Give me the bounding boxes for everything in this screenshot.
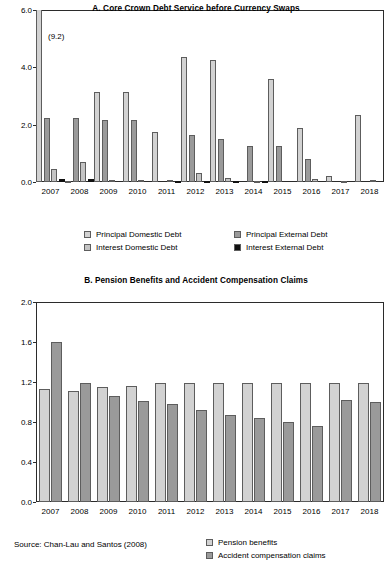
panel-a-plot-area: A. Core Crown Debt Service before Curren… (0, 0, 392, 200)
bar-2018-accident-compensation-claims (370, 402, 381, 502)
bar-2017-accident-compensation-claims (341, 400, 352, 502)
x-tick-label-2010: 2010 (129, 187, 147, 196)
bar-2007-pension-benefits (39, 389, 50, 502)
bar-2016-principal-external-debt (305, 159, 311, 182)
x-tick-label-2012: 2012 (187, 507, 205, 516)
y-tick-label: 1.6 (21, 338, 32, 347)
legend-swatch-icon (206, 552, 213, 559)
bar-2017-principal-domestic-debt (326, 176, 332, 182)
y-tick-mark (33, 382, 36, 383)
bar-2015-principal-domestic-debt (268, 79, 274, 182)
bar-2012-interest-domestic-debt (196, 173, 202, 182)
x-tick-label-2015: 2015 (274, 187, 292, 196)
x-tick-label-2014: 2014 (245, 507, 263, 516)
bar-2013-interest-domestic-debt (225, 178, 231, 182)
bar-2009-principal-domestic-debt (94, 92, 100, 182)
y-tick-label: 0.8 (21, 418, 32, 427)
legend-item-principal-domestic-debt[interactable]: Principal Domestic Debt (84, 230, 234, 239)
bar-2016-pension-benefits (300, 383, 311, 502)
y-tick-label: 0.4 (21, 458, 32, 467)
bar-2008-principal-domestic-debt (65, 181, 71, 183)
bar-2008-interest-domestic-debt (80, 162, 86, 182)
bar-2012-accident-compensation-claims (196, 410, 207, 502)
panel-b-plot-area: B. Pension Benefits and Accident Compens… (0, 272, 392, 528)
bar-2007-principal-domestic-debt (36, 10, 42, 182)
bar-2016-principal-domestic-debt (297, 128, 303, 182)
bar-2014-interest-domestic-debt (254, 181, 260, 183)
panel-b-chart: B. Pension Benefits and Accident Compens… (0, 272, 392, 566)
x-tick-label-2009: 2009 (100, 187, 118, 196)
x-tick-label-2011: 2011 (158, 187, 175, 196)
legend-swatch-icon (84, 231, 91, 238)
legend-item-interest-domestic-debt[interactable]: Interest Domestic Debt (84, 243, 234, 252)
legend-item-principal-external-debt[interactable]: Principal External Debt (234, 230, 384, 239)
bar-2007-interest-domestic-debt (51, 169, 57, 182)
bar-2014-accident-compensation-claims (254, 418, 265, 502)
y-tick-label: 0.0 (21, 498, 32, 507)
bar-2007-principal-external-debt (44, 118, 50, 183)
x-tick-label-2017: 2017 (332, 507, 350, 516)
bar-2009-principal-external-debt (102, 120, 108, 182)
legend-item-interest-external-debt[interactable]: Interest External Debt (234, 243, 384, 252)
y-tick-mark (33, 422, 36, 423)
source-note: Source: Chan-Lau and Santos (2008) (14, 540, 147, 549)
bar-2010-accident-compensation-claims (138, 401, 149, 502)
x-tick-label-2008: 2008 (71, 507, 89, 516)
bar-2008-accident-compensation-claims (80, 383, 91, 502)
legend-swatch-icon (234, 244, 241, 251)
legend-swatch-icon (206, 539, 213, 546)
bar-2015-principal-external-debt (276, 146, 282, 182)
legend-label: Interest External Debt (246, 243, 323, 252)
bar-2007-accident-compensation-claims (51, 342, 62, 502)
bar-2014-interest-external-debt (262, 181, 268, 183)
bar-2009-interest-domestic-debt (109, 180, 115, 182)
x-tick-label-2007: 2007 (42, 187, 60, 196)
bar-2012-principal-external-debt (189, 135, 195, 182)
bar-2008-pension-benefits (68, 391, 79, 502)
x-tick-label-2007: 2007 (42, 507, 60, 516)
bar-2010-principal-external-debt (131, 120, 137, 182)
bar-2013-accident-compensation-claims (225, 415, 236, 502)
bar-2013-principal-domestic-debt (210, 60, 216, 182)
bar-2013-pension-benefits (213, 383, 224, 502)
bar-2018-interest-domestic-debt (370, 180, 376, 182)
legend-item-accident-compensation-claims[interactable]: Accident compensation claims (206, 551, 392, 560)
bar-2012-principal-domestic-debt (181, 57, 187, 182)
x-tick-label-2013: 2013 (216, 187, 234, 196)
bar-2017-interest-domestic-debt (341, 181, 347, 183)
panel-a-legend: Principal Domestic DebtPrincipal Externa… (84, 230, 384, 256)
bar-2012-pension-benefits (184, 383, 195, 502)
bar-2014-principal-external-debt (247, 146, 253, 182)
bar-2013-principal-external-debt (218, 139, 224, 182)
legend-label: Interest Domestic Debt (96, 243, 177, 252)
bar-2007-interest-external-debt (59, 179, 65, 182)
legend-swatch-icon (234, 231, 241, 238)
x-tick-label-2014: 2014 (245, 187, 263, 196)
bar-2008-principal-external-debt (73, 118, 79, 183)
bar-2017-pension-benefits (329, 383, 340, 502)
legend-label: Principal Domestic Debt (96, 230, 181, 239)
y-tick-label: 4.0 (21, 63, 32, 72)
bar-2014-pension-benefits (242, 383, 253, 502)
bar-2009-accident-compensation-claims (109, 396, 120, 502)
bar-2015-pension-benefits (271, 383, 282, 502)
y-tick-mark (33, 342, 36, 343)
bar-2018-pension-benefits (358, 383, 369, 502)
bar-2010-principal-domestic-debt (123, 92, 129, 182)
bar-2016-accident-compensation-claims (312, 426, 323, 502)
bar-2011-accident-compensation-claims (167, 404, 178, 502)
bar-2011-interest-domestic-debt (167, 180, 173, 182)
x-tick-label-2012: 2012 (187, 187, 205, 196)
legend-label: Accident compensation claims (218, 551, 326, 560)
bar-2012-interest-external-debt (204, 181, 210, 183)
panel-b-legend: Pension benefitsAccident compensation cl… (206, 538, 392, 564)
bar-2018-principal-domestic-debt (355, 115, 361, 182)
bar-2015-accident-compensation-claims (283, 422, 294, 502)
bar-2016-interest-domestic-debt (312, 179, 318, 182)
legend-item-pension-benefits[interactable]: Pension benefits (206, 538, 392, 547)
x-tick-label-2018: 2018 (361, 507, 379, 516)
legend-label: Principal External Debt (246, 230, 327, 239)
x-tick-label-2018: 2018 (361, 187, 379, 196)
x-tick-label-2008: 2008 (71, 187, 89, 196)
bar-2009-pension-benefits (97, 387, 108, 502)
